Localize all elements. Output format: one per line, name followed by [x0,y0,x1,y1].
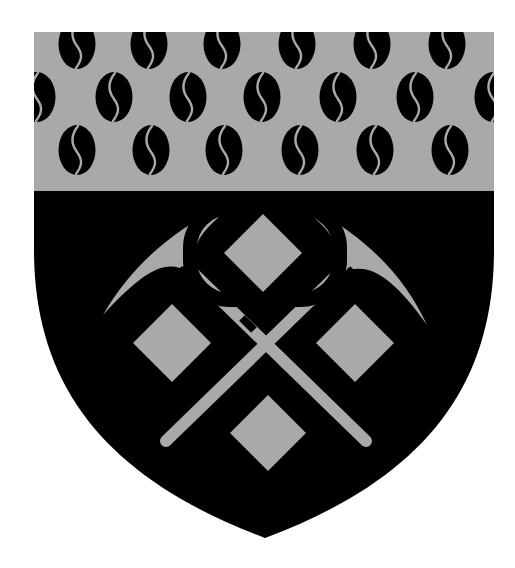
coffee-bean-icon [59,125,96,175]
shield-svg [0,0,515,568]
coffee-bean-icon [59,19,96,69]
shield-field [0,0,515,568]
coffee-bean-icon [354,19,391,69]
chief [19,19,512,191]
coffee-bean-icon [282,125,319,175]
coffee-bean-icon [357,125,394,175]
coffee-bean-icon [279,19,316,69]
coffee-bean-icon [432,125,469,175]
coffee-bean-icon [131,19,168,69]
coffee-bean-icon [19,72,56,122]
coffee-bean-icon [397,72,434,122]
coffee-bean-icon [96,72,133,122]
coffee-bean-icon [204,19,241,69]
coffee-bean-icon [320,72,357,122]
coffee-bean-icon [170,72,207,122]
coffee-bean-icon [206,125,243,175]
coffee-bean-icon [475,72,512,122]
coffee-bean-icon [133,125,170,175]
coffee-bean-icon [429,19,466,69]
coat-of-arms: Coat of arms shield with coffee beans an… [0,0,515,568]
coffee-bean-icon [244,72,281,122]
